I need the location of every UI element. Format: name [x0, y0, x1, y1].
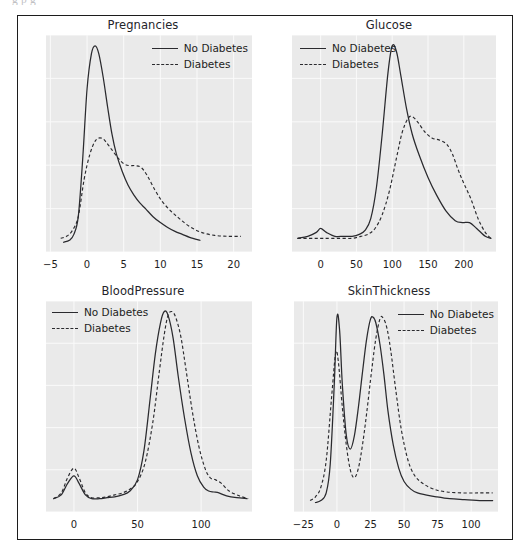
- xtick-label: −25: [293, 517, 314, 533]
- curve-no-diabetes: [298, 45, 491, 239]
- xtick-label: 100: [462, 517, 481, 533]
- curve-no-diabetes: [64, 46, 200, 242]
- legend-label-diabetes: Diabetes: [84, 322, 131, 335]
- xtick-label: 75: [431, 517, 444, 533]
- xtick-label: 15: [191, 257, 204, 273]
- xtick-label: 50: [350, 257, 363, 273]
- xtick-label: 150: [418, 257, 437, 273]
- legend-pregnancies: No Diabetes Diabetes: [152, 42, 248, 71]
- legend-item-no-diabetes[interactable]: No Diabetes: [300, 42, 396, 55]
- xtick-label: 50: [398, 517, 411, 533]
- panel-title-glucose: Glucose: [270, 18, 508, 33]
- legend-item-diabetes[interactable]: Diabetes: [398, 324, 477, 337]
- legend-line-solid-icon: [152, 48, 178, 49]
- legend-label-no-diabetes: No Diabetes: [184, 42, 248, 55]
- panel-title-skinthickness: SkinThickness: [270, 284, 508, 299]
- legend-line-dashed-icon: [52, 328, 78, 329]
- legend-item-diabetes[interactable]: Diabetes: [300, 58, 379, 71]
- xtick-label: 0: [84, 257, 90, 273]
- panel-skinthickness: SkinThickness No Diabetes Diabetes −2502…: [270, 284, 508, 536]
- curve-diabetes: [54, 311, 249, 498]
- panel-pregnancies: Pregnancies No Diabetes Diabetes −505101…: [24, 18, 262, 276]
- legend-item-diabetes[interactable]: Diabetes: [152, 58, 231, 71]
- legend-label-no-diabetes: No Diabetes: [332, 42, 396, 55]
- xtick-label: 0: [334, 517, 340, 533]
- legend-line-dashed-icon: [152, 64, 178, 65]
- legend-item-diabetes[interactable]: Diabetes: [52, 322, 131, 335]
- legend-item-no-diabetes[interactable]: No Diabetes: [398, 308, 494, 321]
- legend-label-diabetes: Diabetes: [184, 58, 231, 71]
- legend-label-no-diabetes: No Diabetes: [84, 306, 148, 319]
- page-cutoff-text: g p g: [12, 0, 432, 5]
- legend-item-no-diabetes[interactable]: No Diabetes: [152, 42, 248, 55]
- legend-label-diabetes: Diabetes: [430, 324, 477, 337]
- curve-diabetes: [61, 138, 241, 238]
- xtick-label: 50: [131, 517, 144, 533]
- legend-line-solid-icon: [300, 48, 326, 49]
- curve-diabetes: [298, 116, 491, 238]
- legend-label-diabetes: Diabetes: [332, 58, 379, 71]
- legend-line-solid-icon: [398, 314, 424, 315]
- xtick-label: 5: [121, 257, 127, 273]
- curve-diabetes: [310, 316, 493, 500]
- xtick-label: 20: [227, 257, 240, 273]
- xticks-pregnancies: −505101520: [24, 257, 262, 273]
- xticks-skinthickness: −250255075100: [270, 517, 508, 533]
- xtick-label: 200: [454, 257, 473, 273]
- xtick-label: 100: [192, 517, 211, 533]
- panel-title-pregnancies: Pregnancies: [24, 18, 262, 33]
- legend-label-no-diabetes: No Diabetes: [430, 308, 494, 321]
- legend-item-no-diabetes[interactable]: No Diabetes: [52, 306, 148, 319]
- panel-bloodpressure: BloodPressure No Diabetes Diabetes 05010…: [24, 284, 262, 536]
- panel-glucose: Glucose No Diabetes Diabetes 05010015020…: [270, 18, 508, 276]
- xtick-label: 25: [364, 517, 377, 533]
- xtick-label: 0: [71, 517, 77, 533]
- legend-line-solid-icon: [52, 312, 78, 313]
- xtick-label: 100: [383, 257, 402, 273]
- legend-line-dashed-icon: [398, 330, 424, 331]
- xtick-label: −5: [43, 257, 58, 273]
- xticks-glucose: 050100150200: [270, 257, 508, 273]
- legend-bloodpressure: No Diabetes Diabetes: [52, 306, 148, 335]
- legend-skinthickness: No Diabetes Diabetes: [398, 308, 494, 337]
- xtick-label: 10: [154, 257, 167, 273]
- panel-grid: Pregnancies No Diabetes Diabetes −505101…: [18, 16, 512, 539]
- curve-no-diabetes: [54, 311, 247, 499]
- xticks-bloodpressure: 050100: [24, 517, 262, 533]
- xtick-label: 0: [317, 257, 323, 273]
- legend-glucose: No Diabetes Diabetes: [300, 42, 396, 71]
- legend-line-dashed-icon: [300, 64, 326, 65]
- panel-title-bloodpressure: BloodPressure: [24, 284, 262, 299]
- figure-frame: Pregnancies No Diabetes Diabetes −505101…: [17, 15, 513, 540]
